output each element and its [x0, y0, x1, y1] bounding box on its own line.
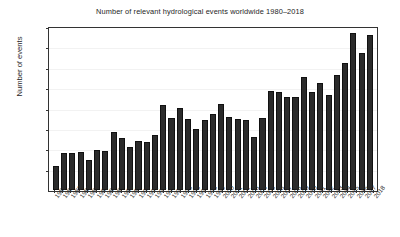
x-label-slot: 2009	[293, 193, 301, 237]
bar[interactable]	[334, 75, 340, 189]
bar[interactable]	[193, 129, 199, 190]
bar[interactable]	[301, 77, 307, 190]
bar-slot	[184, 29, 192, 190]
y-tick-mark	[46, 110, 49, 111]
x-label-slot: 2014	[335, 193, 343, 237]
bar[interactable]	[111, 132, 117, 190]
bar-slot	[143, 29, 151, 190]
bar-slot	[151, 29, 159, 190]
bar[interactable]	[235, 119, 241, 190]
x-label-slot: 1986	[100, 193, 108, 237]
bar-slot	[333, 29, 341, 190]
x-label-slot: 1989	[125, 193, 133, 237]
x-axis: 1980198119821983198419851986198719881989…	[48, 193, 378, 237]
y-tick-mark	[46, 28, 49, 29]
bar[interactable]	[359, 53, 365, 190]
bar[interactable]	[326, 95, 332, 190]
bar-slot	[242, 29, 250, 190]
x-label-slot: 1995	[175, 193, 183, 237]
bar-slot	[76, 29, 84, 190]
bar[interactable]	[177, 108, 183, 190]
x-label-slot: 2006	[268, 193, 276, 237]
x-label-slot: 2015	[343, 193, 351, 237]
bar-slot	[176, 29, 184, 190]
bar[interactable]	[342, 63, 348, 189]
bar[interactable]	[309, 92, 315, 190]
bar-slot	[167, 29, 175, 190]
x-label-slot: 1990	[133, 193, 141, 237]
bar[interactable]	[367, 35, 373, 190]
x-label-slot: 1996	[184, 193, 192, 237]
x-label-slot: 2012	[318, 193, 326, 237]
bar[interactable]	[259, 118, 265, 190]
bar[interactable]	[160, 105, 166, 190]
bar-slot	[283, 29, 291, 190]
x-label-slot: 1988	[117, 193, 125, 237]
x-label-slot: 1980	[50, 193, 58, 237]
bar[interactable]	[350, 33, 356, 190]
bar[interactable]	[144, 142, 150, 189]
bar-slot	[250, 29, 258, 190]
x-label-slot: 2013	[326, 193, 334, 237]
x-label-slot: 1999	[209, 193, 217, 237]
bar-slot	[68, 29, 76, 190]
bar[interactable]	[185, 119, 191, 190]
bar-slot	[60, 29, 68, 190]
x-label-slot: 2002	[234, 193, 242, 237]
bar-slot	[85, 29, 93, 190]
bar[interactable]	[202, 120, 208, 190]
bar-slot	[126, 29, 134, 190]
bar[interactable]	[135, 141, 141, 190]
bar[interactable]	[53, 166, 59, 190]
x-label-slot: 2000	[217, 193, 225, 237]
bar-slot	[366, 29, 374, 190]
x-label-slot: 1992	[150, 193, 158, 237]
bar[interactable]	[268, 91, 274, 190]
bar[interactable]	[284, 97, 290, 189]
bar-slot	[110, 29, 118, 190]
bar[interactable]	[152, 135, 158, 190]
bar[interactable]	[251, 137, 257, 190]
bar-slot	[341, 29, 349, 190]
bar-slot	[258, 29, 266, 190]
plot-area: 50100150200250300350400	[48, 27, 378, 192]
bar-slot	[358, 29, 366, 190]
bar-slot	[134, 29, 142, 190]
bar-slot	[209, 29, 217, 190]
x-label-slot: 2008	[284, 193, 292, 237]
bar-slot	[192, 29, 200, 190]
x-label-slot: 2017	[360, 193, 368, 237]
bar[interactable]	[210, 114, 216, 190]
bar-slot	[300, 29, 308, 190]
y-tick-mark	[46, 150, 49, 151]
bar-slot	[52, 29, 60, 190]
bar[interactable]	[218, 104, 224, 190]
bar-slot	[267, 29, 275, 190]
bar-slot	[93, 29, 101, 190]
x-label-slot: 2003	[242, 193, 250, 237]
x-label-slot: 2005	[259, 193, 267, 237]
bar[interactable]	[168, 118, 174, 189]
x-label-slot: 2004	[251, 193, 259, 237]
x-label-slot: 1991	[142, 193, 150, 237]
bar[interactable]	[243, 120, 249, 189]
bar[interactable]	[292, 97, 298, 190]
bar[interactable]	[226, 117, 232, 190]
chart-figure: Number of relevant hydrological events w…	[0, 0, 400, 237]
bar-series	[50, 29, 376, 190]
chart-title: Number of relevant hydrological events w…	[0, 7, 400, 16]
bar-slot	[291, 29, 299, 190]
bar-slot	[316, 29, 324, 190]
x-label-slot: 2018	[368, 193, 376, 237]
bar[interactable]	[276, 92, 282, 190]
bar[interactable]	[119, 138, 125, 190]
x-label-slot: 1993	[159, 193, 167, 237]
x-label-slot: 1998	[201, 193, 209, 237]
x-label-slot: 1994	[167, 193, 175, 237]
x-label-slot: 2007	[276, 193, 284, 237]
bar-slot	[349, 29, 357, 190]
y-axis-title: Number of events	[15, 7, 24, 127]
bar[interactable]	[317, 83, 323, 189]
x-label-slot: 1987	[108, 193, 116, 237]
y-tick-mark	[46, 171, 49, 172]
